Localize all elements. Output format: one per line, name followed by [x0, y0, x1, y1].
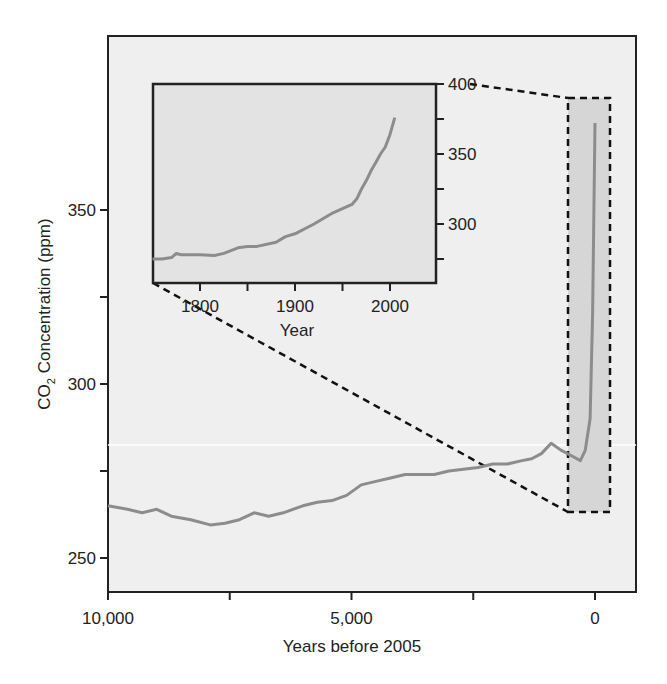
main-y-axis-title: CO2 Concentration (ppm): [35, 218, 57, 409]
main-x-axis: 10,0005,0000: [82, 592, 600, 628]
main-y-tick-label: 250: [68, 549, 96, 568]
inset-y-tick-label: 300: [448, 215, 476, 234]
main-x-tick-label: 0: [590, 609, 599, 628]
main-x-tick-label: 5,000: [330, 609, 373, 628]
main-y-tick-label: 300: [68, 375, 96, 394]
inset-x-tick-label: 1800: [181, 297, 219, 316]
inset-y-tick-label: 400: [448, 75, 476, 94]
main-y-axis: 250300350: [68, 201, 108, 568]
inset-x-tick-label: 2000: [371, 297, 409, 316]
inset-plot-area: [153, 84, 436, 283]
main-y-tick-label: 350: [68, 201, 96, 220]
inset-x-tick-label: 1900: [276, 297, 314, 316]
main-x-axis-title: Years before 2005: [283, 637, 421, 656]
inset-x-axis-title: Year: [280, 321, 315, 340]
chart: 250300350 10,0005,0000 CO2 Concentration…: [0, 0, 667, 684]
inset-y-tick-label: 350: [448, 145, 476, 164]
zoom-region-box: [568, 98, 610, 512]
main-x-tick-label: 10,000: [82, 609, 134, 628]
